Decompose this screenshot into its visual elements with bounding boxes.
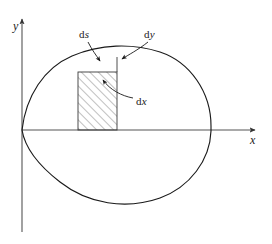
- dy-label: dy: [144, 29, 155, 40]
- ds-leader-line: [88, 42, 100, 61]
- y-axis-label: y: [13, 20, 18, 32]
- x-axis-label: x: [250, 134, 255, 146]
- figure-container: y x ds dy dx: [0, 0, 272, 244]
- ds-label: ds: [79, 29, 89, 40]
- ds-label-var: s: [85, 28, 89, 40]
- differential-strip-fill: [78, 72, 117, 130]
- dy-label-var: y: [150, 28, 155, 40]
- dx-label-var: x: [142, 95, 147, 107]
- dx-label: dx: [136, 96, 147, 107]
- dy-leader-line: [122, 42, 148, 59]
- figure-canvas: [0, 0, 272, 244]
